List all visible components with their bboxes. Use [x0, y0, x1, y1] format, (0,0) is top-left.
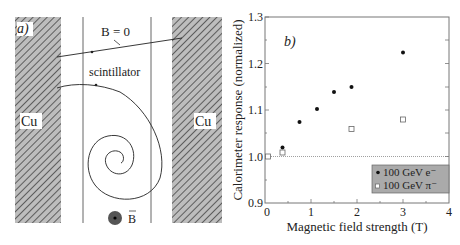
- panel-a: a) Cu Cu B = 0 scintillator B: [15, 17, 222, 226]
- svg-text:0: 0: [264, 205, 270, 219]
- panel-b-label: b): [284, 34, 296, 50]
- panel-b: 1.3 1.2 1.1 1.0 0.9 0 1 2 3 4 Magnetic f…: [230, 10, 452, 234]
- svg-text:100 GeV e⁻: 100 GeV e⁻: [383, 166, 436, 178]
- spiral-track: [57, 85, 162, 200]
- x-axis-label: Magnetic field strength (T): [286, 219, 427, 234]
- svg-text:1.2: 1.2: [248, 57, 263, 71]
- svg-text:2: 2: [354, 205, 360, 219]
- svg-text:0.9: 0.9: [248, 196, 263, 210]
- svg-text:1: 1: [308, 205, 314, 219]
- svg-text:1.0: 1.0: [248, 150, 263, 164]
- svg-text:1.3: 1.3: [248, 10, 263, 24]
- cu-right-label: Cu: [195, 114, 211, 129]
- cu-left-label: Cu: [21, 114, 37, 129]
- legend: 100 GeV e⁻ 100 GeV π⁻: [372, 165, 449, 193]
- svg-text:1.1: 1.1: [248, 103, 263, 117]
- panel-a-label: a): [17, 21, 29, 37]
- b-zero-label: B = 0: [101, 24, 130, 39]
- scintillator-label: scintillator: [89, 65, 140, 79]
- y-axis-label: Calorimeter response (normalized): [230, 19, 245, 200]
- series-pions: [266, 117, 406, 159]
- x-tick-labels: 0 1 2 3 4: [264, 205, 452, 219]
- figure: a) Cu Cu B = 0 scintillator B: [0, 0, 460, 245]
- svg-text:3: 3: [400, 205, 406, 219]
- svg-text:100 GeV π⁻: 100 GeV π⁻: [383, 179, 437, 191]
- y-tick-labels: 1.3 1.2 1.1 1.0 0.9: [248, 10, 263, 210]
- straight-track: [57, 38, 182, 57]
- b-field-label: B: [128, 212, 136, 226]
- svg-text:4: 4: [446, 205, 452, 219]
- series-electrons: [266, 51, 405, 159]
